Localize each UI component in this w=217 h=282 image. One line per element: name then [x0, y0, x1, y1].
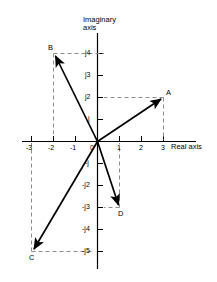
vector-d: [98, 142, 119, 206]
imag-tick-minus-j5: -j5: [82, 247, 90, 255]
imag-tick-j: j: [88, 115, 90, 123]
point-label-d: D: [118, 210, 123, 218]
real-tick-minus1: -1: [70, 144, 76, 152]
imag-tick-minus-j4: -j4: [82, 225, 90, 233]
real-tick-minus3: -3: [26, 144, 32, 152]
real-tick-2: 2: [139, 144, 143, 152]
argand-diagram: Imaginary axis Real axis -3 -2 -1 0 1 2 …: [0, 0, 217, 282]
imag-tick-minus-j: -j: [85, 159, 89, 167]
real-tick-minus2: -2: [48, 144, 54, 152]
imaginary-axis-title: Imaginary axis: [83, 16, 116, 32]
imag-tick-j4: j4: [85, 49, 90, 57]
origin-label: 0: [90, 144, 94, 152]
imag-tick-j3: j3: [85, 71, 90, 79]
real-tick-1: 1: [117, 144, 121, 152]
vector-b: [56, 56, 98, 142]
point-label-a: A: [166, 89, 171, 97]
real-axis-title: Real axis: [171, 143, 202, 151]
imag-tick-minus-j3: -j3: [82, 203, 90, 211]
point-label-c: C: [29, 254, 34, 262]
real-tick-3: 3: [161, 144, 165, 152]
point-label-b: B: [48, 44, 53, 52]
imag-tick-minus-j2: -j2: [82, 181, 90, 189]
imag-tick-j2: j2: [85, 93, 90, 101]
diagram-canvas: [0, 0, 217, 282]
vector-a: [98, 99, 162, 142]
